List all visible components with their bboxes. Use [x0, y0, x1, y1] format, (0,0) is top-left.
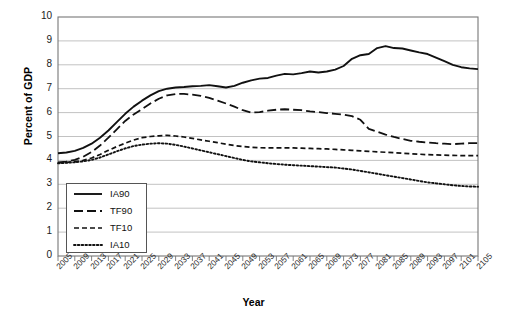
- legend-item-ia10[interactable]: IA10: [67, 236, 146, 253]
- legend-swatch-dashed-short-icon: [73, 222, 103, 234]
- series-line-tf90: [58, 94, 478, 162]
- y-tick-label: 3: [30, 177, 52, 188]
- legend-item-tf90[interactable]: TF90: [67, 202, 146, 219]
- legend-swatch-dotted-icon: [73, 239, 103, 251]
- legend-item-ia90[interactable]: IA90: [67, 185, 146, 202]
- legend-label: IA10: [110, 239, 130, 250]
- y-tick-label: 7: [30, 82, 52, 93]
- y-tick-label: 0: [30, 249, 52, 260]
- legend-swatch-solid-icon: [73, 188, 103, 200]
- y-tick-label: 10: [30, 10, 52, 21]
- legend-label: TF10: [110, 222, 132, 233]
- y-tick-label: 1: [30, 225, 52, 236]
- y-tick-label: 2: [30, 201, 52, 212]
- y-tick-label: 9: [30, 34, 52, 45]
- legend-item-tf10[interactable]: TF10: [67, 219, 146, 236]
- y-tick-label: 6: [30, 106, 52, 117]
- x-axis-title: Year: [0, 296, 507, 308]
- plot-area: [0, 0, 507, 320]
- legend-label: IA90: [110, 188, 130, 199]
- legend-swatch-dashed-long-icon: [73, 205, 103, 217]
- chart-legend: IA90TF90TF10IA10: [66, 183, 147, 253]
- y-tick-label: 8: [30, 58, 52, 69]
- legend-label: TF90: [110, 205, 132, 216]
- y-tick-label: 5: [30, 130, 52, 141]
- series-line-ia90: [58, 46, 478, 153]
- y-tick-label: 4: [30, 153, 52, 164]
- series-line-ia10: [58, 143, 478, 187]
- chart-container: Percent of GDP Year 012345678910 2005200…: [0, 0, 507, 320]
